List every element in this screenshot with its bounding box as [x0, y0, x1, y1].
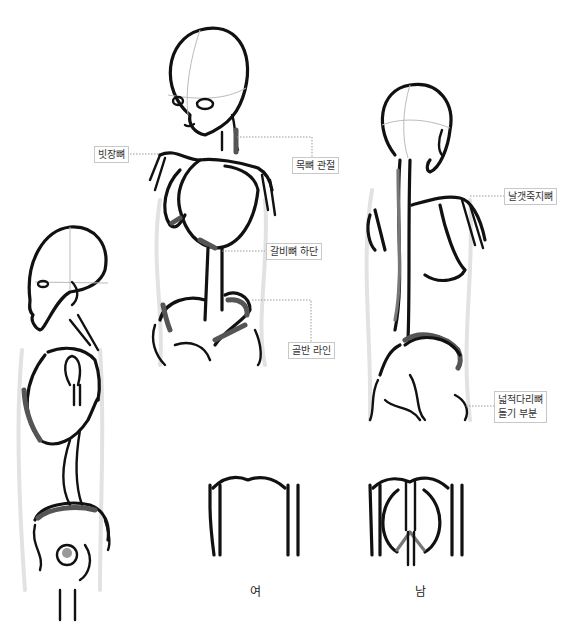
label-clavicle: 빗장뼈 — [94, 146, 129, 163]
male-ribcage-diagram — [370, 478, 462, 565]
label-scapula: 날갯죽지뼈 — [504, 188, 557, 205]
front-figure — [150, 28, 275, 365]
female-ribcage-diagram — [210, 478, 298, 555]
label-pelvis-line: 골반 라인 — [288, 342, 335, 359]
label-femur-line1: 넓적다리뼈 — [498, 393, 543, 407]
anatomy-illustration — [0, 0, 570, 624]
side-figure — [19, 227, 110, 620]
label-rib-bottom: 갈비뼈 하단 — [266, 243, 322, 260]
label-femur-process: 넓적다리뼈 돌기 부분 — [494, 391, 547, 423]
back-figure — [367, 84, 485, 420]
label-femur-line2: 돌기 부분 — [498, 407, 543, 421]
caption-male: 남 — [415, 582, 426, 599]
caption-female: 여 — [250, 582, 261, 599]
label-neck-joint: 목뼈 관절 — [292, 157, 339, 174]
